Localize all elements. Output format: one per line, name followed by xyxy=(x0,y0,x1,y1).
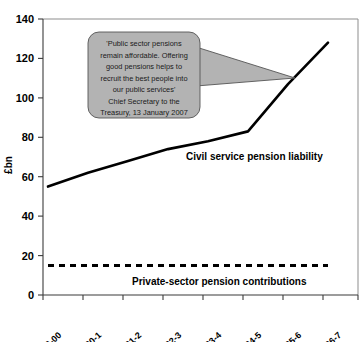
x-tick-label: 1999-00 xyxy=(32,330,63,342)
x-tick-label: 2005-6 xyxy=(276,330,304,342)
callout-line: our public services' xyxy=(113,85,176,94)
y-tick-label: 20 xyxy=(22,250,34,262)
callout-line: Treasury, 13 January 2007 xyxy=(100,108,188,117)
callout-line: Chief Secretary to the xyxy=(108,97,179,106)
series-label-civil-service: Civil service pension liability xyxy=(186,151,323,162)
y-tick-label: 80 xyxy=(22,131,34,143)
x-tick-marks xyxy=(43,295,358,300)
y-tick-label: 0 xyxy=(28,289,34,301)
chart-figure: 0 20 40 60 80 100 120 140 £bn 1999-00 20… xyxy=(0,0,364,342)
y-tick-label: 140 xyxy=(16,13,34,25)
y-tick-label: 100 xyxy=(16,92,34,104)
x-tick-label: 2001-2 xyxy=(116,330,144,342)
x-tick-label: 2006-7 xyxy=(316,330,344,342)
callout-line: 'Public sector pensions xyxy=(106,39,182,48)
x-tick-label: 2003-4 xyxy=(196,330,224,342)
y-tick-marks xyxy=(38,19,43,295)
y-tick-labels: 0 20 40 60 80 100 120 140 xyxy=(16,13,34,301)
y-axis-title: £bn xyxy=(3,156,14,174)
x-tick-label: 2004-5 xyxy=(236,330,264,342)
callout-line: remain affordable. Offering xyxy=(100,51,188,60)
x-tick-labels: 1999-00 2000-1 2001-2 2002-3 2003-4 2004… xyxy=(32,330,343,342)
x-tick-label: 2000-1 xyxy=(76,330,104,342)
line-chart: 0 20 40 60 80 100 120 140 £bn 1999-00 20… xyxy=(0,0,364,342)
quote-callout-text: 'Public sector pensions remain affordabl… xyxy=(100,39,188,117)
y-tick-label: 120 xyxy=(16,52,34,64)
callout-tail xyxy=(196,47,295,86)
x-tick-label: 2002-3 xyxy=(156,330,184,342)
callout-line: good pensions helps to xyxy=(106,62,182,71)
callout-line: recruit the best people into xyxy=(100,74,187,83)
series-label-private-sector: Private-sector pension contributions xyxy=(132,276,307,287)
y-tick-label: 60 xyxy=(22,171,34,183)
y-tick-label: 40 xyxy=(22,210,34,222)
